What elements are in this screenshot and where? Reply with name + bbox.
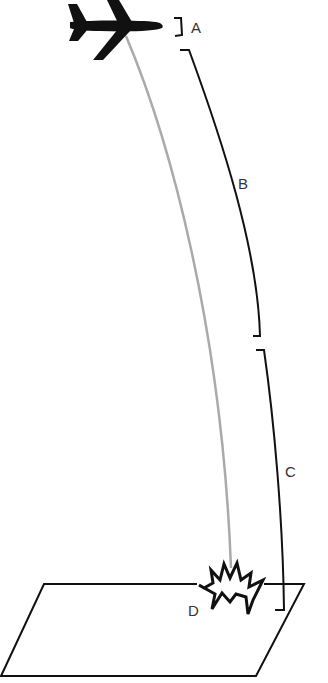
ground-plane — [1, 584, 304, 676]
bracket-a — [174, 18, 182, 36]
bracket-b — [180, 50, 260, 336]
label-a: A — [191, 20, 201, 35]
explosion-icon — [199, 563, 263, 614]
airplane-icon — [68, 0, 163, 60]
label-b: B — [238, 176, 248, 191]
label-d: D — [188, 603, 199, 618]
bracket-c — [256, 350, 284, 610]
diagram-canvas: A B C D — [0, 0, 328, 683]
trajectory-line — [126, 36, 231, 568]
diagram-svg — [0, 0, 328, 683]
label-c: C — [285, 464, 296, 479]
